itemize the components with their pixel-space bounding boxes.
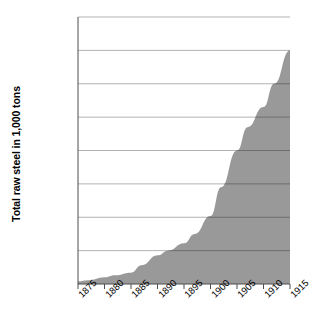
x-axis-tick-labels: 187518801885189018951900190519101915: [0, 0, 310, 327]
x-tick-label: 1875: [76, 277, 99, 300]
x-tick-label: 1910: [262, 277, 285, 300]
x-tick-label: 1890: [156, 277, 179, 300]
x-tick-label: 1900: [209, 277, 232, 300]
x-tick-label: 1905: [235, 277, 258, 300]
x-tick-label: 1880: [103, 277, 126, 300]
x-tick-label: 1895: [182, 277, 205, 300]
x-tick-label: 1885: [129, 277, 152, 300]
x-tick-label: 1915: [288, 277, 310, 300]
chart-figure: Total raw steel in 1,000 tons 05,00010,0…: [0, 0, 310, 327]
